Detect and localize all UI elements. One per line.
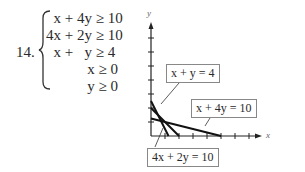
- x-axis-label: x: [266, 130, 270, 140]
- label-x-y-4: x + y = 4: [166, 64, 220, 83]
- feasible-region-graph: [0, 0, 305, 172]
- y-axis-arrow-icon: [149, 22, 154, 29]
- y-axis-label: y: [147, 8, 151, 18]
- label-x-4y-10: x + 4y = 10: [191, 99, 257, 118]
- line-x-4y-10: [151, 119, 221, 137]
- x-axis-arrow-icon: [255, 134, 262, 139]
- label-4x-2y-10: 4x + 2y = 10: [147, 148, 219, 167]
